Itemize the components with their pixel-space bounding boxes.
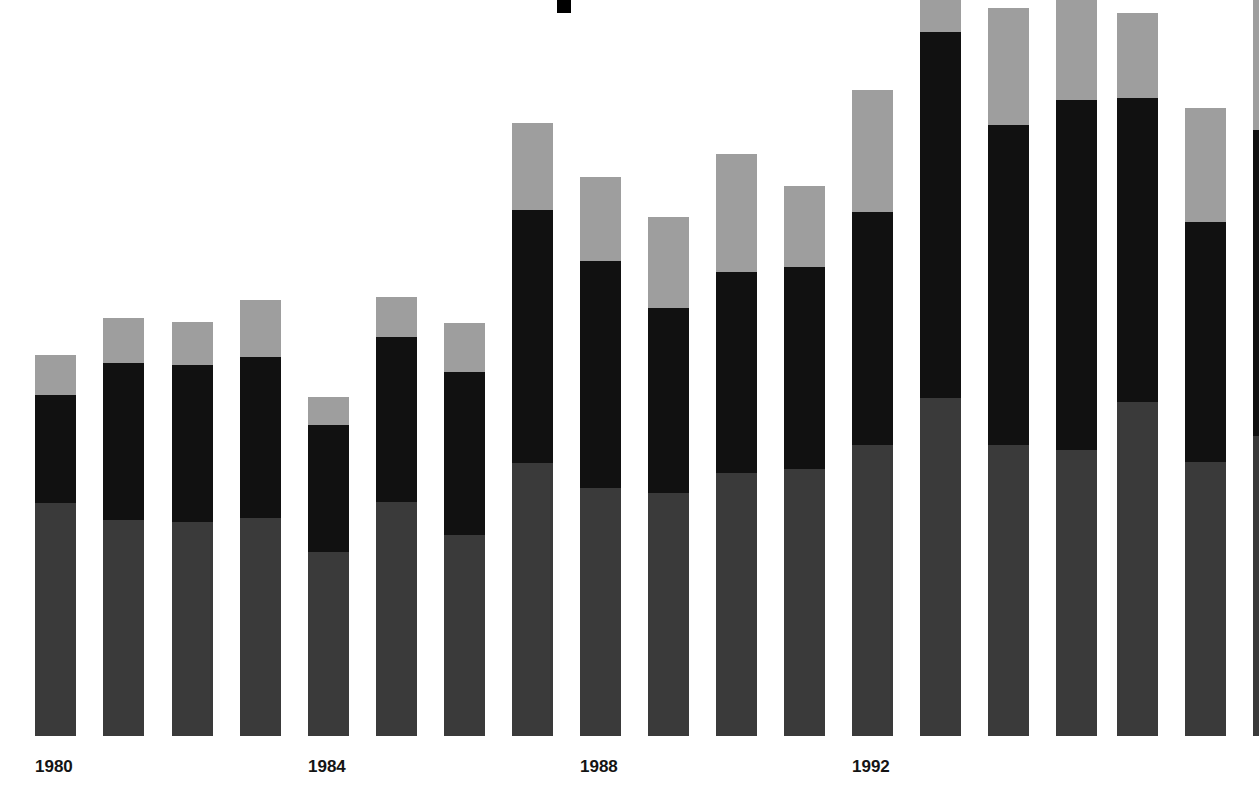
bar-segment-top: [240, 300, 281, 357]
bar-segment-middle: [512, 210, 553, 463]
bar-segment-top: [1185, 108, 1226, 222]
bar-segment-bottom: [784, 469, 825, 736]
bar-segment-top: [648, 217, 689, 308]
bar-segment-bottom: [35, 503, 76, 736]
bar-1982[interactable]: [172, 322, 213, 736]
bar-segment-middle: [1185, 222, 1226, 462]
bar-segment-top: [172, 322, 213, 365]
bar-1985[interactable]: [376, 297, 417, 736]
plot-area: [0, 0, 1259, 790]
bar-segment-top: [308, 397, 349, 425]
bar-1984[interactable]: [308, 397, 349, 736]
bar-segment-middle: [1056, 100, 1097, 450]
bar-segment-middle: [988, 125, 1029, 445]
bar-segment-middle: [1117, 98, 1158, 402]
x-axis-tick-labels: 1980198419881992: [0, 756, 1259, 786]
bar-segment-bottom: [1253, 436, 1259, 736]
bar-segment-top: [716, 154, 757, 272]
bar-segment-bottom: [172, 522, 213, 736]
bar-segment-top: [444, 323, 485, 372]
bar-segment-middle: [648, 308, 689, 493]
bar-segment-middle: [852, 212, 893, 445]
bar-segment-bottom: [1185, 462, 1226, 736]
bar-segment-middle: [308, 425, 349, 552]
bar-segment-bottom: [376, 502, 417, 736]
bar-segment-middle: [103, 363, 144, 520]
bar-segment-top: [35, 355, 76, 395]
bar-segment-middle: [716, 272, 757, 473]
bar-segment-bottom: [852, 445, 893, 736]
bar-segment-bottom: [648, 493, 689, 736]
bar-1994[interactable]: [988, 8, 1029, 736]
bar-1995[interactable]: [1056, 0, 1097, 736]
bar-segment-middle: [172, 365, 213, 522]
bar-segment-top: [512, 123, 553, 210]
bar-segment-bottom: [444, 535, 485, 736]
bar-segment-top: [988, 8, 1029, 125]
bar-segment-bottom: [240, 518, 281, 736]
bar-1983[interactable]: [240, 300, 281, 736]
x-axis-label-1992: 1992: [852, 756, 890, 778]
bar-segment-top: [784, 186, 825, 267]
top-center-square-marker: [557, 0, 571, 13]
bar-segment-top: [1117, 13, 1158, 98]
bar-segment-top: [103, 318, 144, 363]
bar-segment-middle: [580, 261, 621, 488]
bar-segment-top: [920, 0, 961, 32]
bar-1992[interactable]: [852, 90, 893, 736]
bar-segment-bottom: [988, 445, 1029, 736]
bar-segment-bottom: [920, 398, 961, 736]
bar-1987[interactable]: [512, 123, 553, 736]
bar-segment-top: [376, 297, 417, 337]
bar-1993[interactable]: [920, 0, 961, 736]
bar-segment-middle: [1253, 130, 1259, 436]
bar-1981[interactable]: [103, 318, 144, 736]
bar-segment-middle: [376, 337, 417, 502]
bar-1991[interactable]: [784, 186, 825, 736]
bar-1980[interactable]: [35, 355, 76, 736]
x-axis-label-1988: 1988: [580, 756, 618, 778]
stacked-bar-chart: 1980198419881992: [0, 0, 1259, 790]
bar-segment-middle: [784, 267, 825, 469]
bar-segment-bottom: [308, 552, 349, 736]
bar-segment-bottom: [1117, 402, 1158, 736]
bar-1989[interactable]: [648, 217, 689, 736]
bar-segment-bottom: [1056, 450, 1097, 736]
bar-segment-bottom: [580, 488, 621, 736]
bar-segment-middle: [35, 395, 76, 503]
bar-segment-middle: [444, 372, 485, 535]
bar-1988[interactable]: [580, 177, 621, 736]
bar-segment-bottom: [103, 520, 144, 736]
bar-segment-top: [580, 177, 621, 261]
bar-1996[interactable]: [1117, 13, 1158, 736]
bar-1990[interactable]: [716, 154, 757, 736]
bar-segment-top: [1253, 0, 1259, 130]
x-axis-label-1980: 1980: [35, 756, 73, 778]
bar-segment-middle: [240, 357, 281, 518]
bar-1998[interactable]: [1253, 0, 1259, 736]
bar-segment-bottom: [512, 463, 553, 736]
bar-1997[interactable]: [1185, 108, 1226, 736]
bar-segment-bottom: [716, 473, 757, 736]
bar-segment-top: [1056, 0, 1097, 100]
bar-segment-middle: [920, 32, 961, 398]
bar-segment-top: [852, 90, 893, 212]
bar-1986[interactable]: [444, 323, 485, 736]
x-axis-label-1984: 1984: [308, 756, 346, 778]
